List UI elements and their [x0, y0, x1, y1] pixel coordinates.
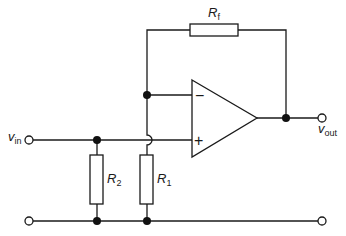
- feedback-resistor-rf: [190, 24, 238, 36]
- rf-label: Rf: [208, 5, 220, 22]
- terminal-vin: [25, 136, 33, 144]
- noninverting-sign: +: [194, 132, 203, 149]
- resistor-r1: R1: [140, 155, 171, 221]
- r1-vertical-wire: [147, 95, 152, 155]
- r1-label: R1: [157, 171, 171, 188]
- junction-dot-output: [282, 114, 290, 122]
- vout-label: vout: [318, 121, 338, 138]
- vin-label: vin: [8, 129, 22, 146]
- junction-dot-feedback: [143, 91, 151, 99]
- junction-dot-input: [93, 136, 101, 144]
- r2-label: R2: [107, 171, 121, 188]
- junction-dot-r1-ground: [143, 217, 151, 225]
- circuit-diagram: Rf − + R2 R1 vin vout: [0, 0, 346, 236]
- junction-dot-r2-ground: [93, 217, 101, 225]
- inverting-sign: −: [195, 87, 204, 104]
- opamp: − +: [192, 80, 257, 157]
- terminal-ground-right: [318, 217, 326, 225]
- resistor-r2: R2: [90, 140, 121, 221]
- terminal-ground-left: [25, 217, 33, 225]
